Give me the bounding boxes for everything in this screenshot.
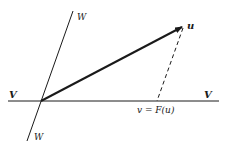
subspace-w-line bbox=[27, 11, 73, 141]
label-v-left: V bbox=[9, 89, 18, 100]
label-w-top: W bbox=[77, 12, 87, 22]
label-projection: v = F(u) bbox=[137, 105, 175, 115]
projection-diagram: V V W W u v = F(u) bbox=[0, 0, 228, 149]
label-u: u bbox=[187, 20, 194, 31]
label-v-right: V bbox=[204, 89, 213, 100]
label-w-bottom: W bbox=[34, 132, 44, 142]
